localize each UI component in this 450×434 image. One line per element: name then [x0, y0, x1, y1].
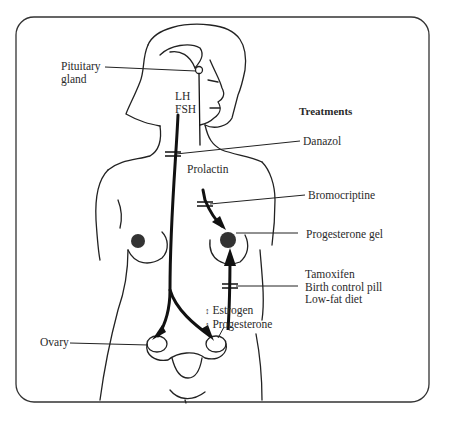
treatment-progesterone-gel: Progesterone gel [306, 228, 383, 241]
treatment-danazol: Danazol [303, 135, 341, 148]
prolactin-label: Prolactin [187, 163, 229, 176]
estrogen-label: Estrogen [212, 304, 253, 316]
estrogen-updown-icon: ↕ [205, 306, 210, 316]
treatment-tamoxifen: Tamoxifen [305, 268, 382, 281]
pituitary-marker [196, 67, 203, 74]
ovary-label: Ovary [40, 336, 69, 349]
progesterone-updown-icon: ↕ [205, 320, 210, 330]
treatment-bromocriptine: Bromocriptine [308, 189, 375, 202]
diagram-canvas: Pituitary gland LH FSH Prolactin Treatme… [0, 0, 450, 434]
progesterone-label: Progesterone [212, 318, 272, 330]
treatment-estrogen-blockers: Tamoxifen Birth control pill Low-fat die… [305, 268, 382, 306]
pituitary-gland-label: Pituitary gland [61, 60, 101, 85]
right-nipple [220, 232, 236, 248]
fsh-label: FSH [175, 103, 196, 116]
treatment-low-fat-diet: Low-fat diet [305, 293, 382, 306]
arrowhead-breast-up [224, 248, 236, 266]
lh-fsh-pathway [158, 115, 210, 336]
left-nipple [131, 234, 145, 248]
pituitary-label-line2: gland [61, 73, 101, 86]
woman-figure [96, 24, 275, 403]
treatments-heading: Treatments [299, 105, 352, 118]
estrogen-progesterone-label: ↕ Estrogen ↕ Progesterone [205, 304, 272, 331]
pituitary-label-line1: Pituitary [61, 60, 101, 73]
treatment-birth-control-pill: Birth control pill [305, 281, 382, 294]
lh-label: LH [175, 90, 196, 103]
lh-fsh-label: LH FSH [175, 90, 196, 115]
